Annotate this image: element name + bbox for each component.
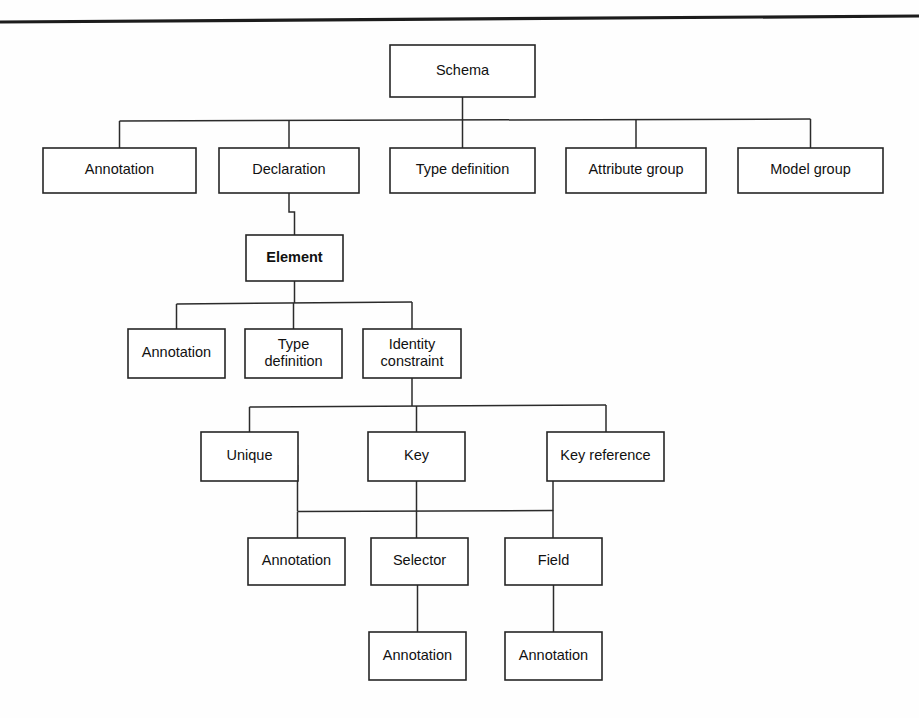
node-annotation-1[interactable]: Annotation <box>43 148 196 193</box>
connector-schema-bus <box>120 119 811 121</box>
connector-leaf-bus <box>298 511 554 512</box>
node-type-definition-1[interactable]: Type definition <box>390 148 535 193</box>
node-label-unique: Unique <box>227 447 273 463</box>
node-label-key: Key <box>404 447 430 463</box>
node-type-definition-2[interactable]: Typedefinition <box>245 329 342 378</box>
node-label-declaration: Declaration <box>252 161 325 177</box>
node-label-annotation-3: Annotation <box>262 552 331 568</box>
node-annotation-3[interactable]: Annotation <box>248 538 345 585</box>
node-field[interactable]: Field <box>505 538 602 585</box>
node-label-key-reference: Key reference <box>560 447 650 463</box>
node-label-annotation-5: Annotation <box>519 647 588 663</box>
node-label-model-group: Model group <box>770 161 851 177</box>
node-annotation-4[interactable]: Annotation <box>369 632 466 680</box>
node-label-identity-constraint: Identity <box>389 336 436 352</box>
header-rule-layer <box>0 16 919 22</box>
connector-identity-bus <box>250 405 607 407</box>
node-label-attribute-group: Attribute group <box>588 161 683 177</box>
node-element[interactable]: Element <box>246 235 343 281</box>
node-annotation-2[interactable]: Annotation <box>128 329 225 378</box>
node-label-type-definition-1: Type definition <box>416 161 510 177</box>
node-unique[interactable]: Unique <box>201 432 298 481</box>
node-attribute-group[interactable]: Attribute group <box>566 148 706 193</box>
node-label-type-definition-2: definition <box>264 353 322 369</box>
node-label-schema: Schema <box>436 62 490 78</box>
node-label-element: Element <box>266 249 323 265</box>
node-model-group[interactable]: Model group <box>738 148 883 193</box>
node-schema[interactable]: Schema <box>390 45 535 97</box>
node-label-selector: Selector <box>393 552 446 568</box>
node-label-annotation-4: Annotation <box>383 647 452 663</box>
page-header-rule <box>0 16 919 22</box>
node-label-type-definition-2: Type <box>278 336 309 352</box>
node-label-annotation-2: Annotation <box>142 344 211 360</box>
schema-hierarchy-diagram: SchemaAnnotationDeclarationType definiti… <box>0 0 919 718</box>
node-annotation-5[interactable]: Annotation <box>505 632 602 680</box>
node-label-annotation-1: Annotation <box>85 161 154 177</box>
node-selector[interactable]: Selector <box>371 538 468 585</box>
connector-declaration-to-element <box>289 193 295 235</box>
node-key-reference[interactable]: Key reference <box>547 432 664 481</box>
diagram-root: SchemaAnnotationDeclarationType definiti… <box>0 0 919 718</box>
node-key[interactable]: Key <box>368 432 465 481</box>
node-label-identity-constraint: constraint <box>381 353 444 369</box>
node-label-field: Field <box>538 552 569 568</box>
node-identity-constraint[interactable]: Identityconstraint <box>363 329 461 378</box>
node-declaration[interactable]: Declaration <box>219 148 359 193</box>
